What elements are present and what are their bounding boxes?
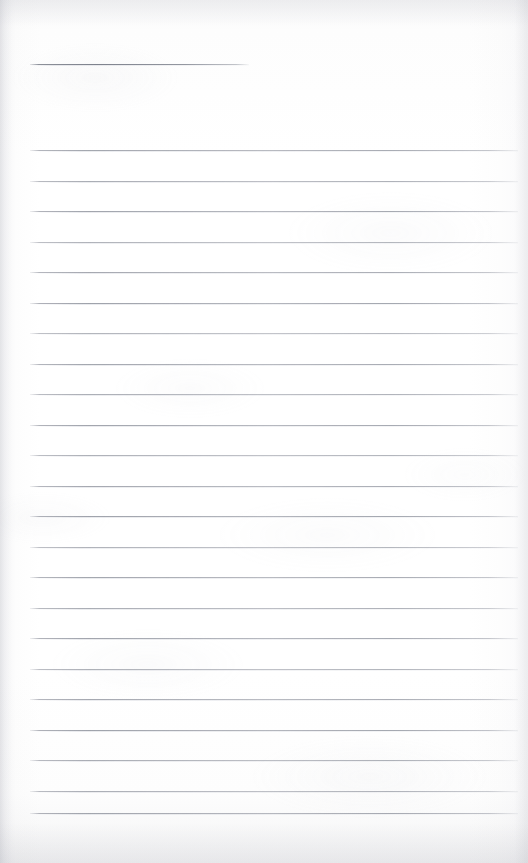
- header-rule: [30, 64, 249, 65]
- scanned-page: [0, 0, 528, 863]
- writing-area[interactable]: [30, 140, 518, 830]
